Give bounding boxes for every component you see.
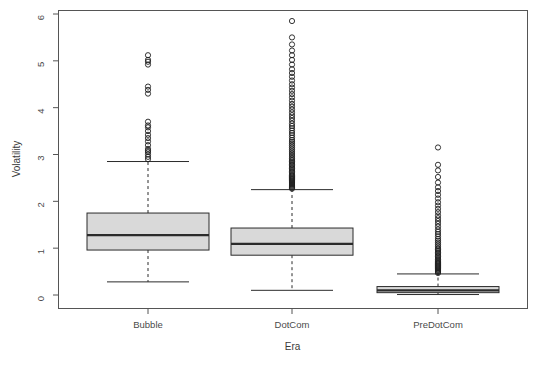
- outlier-point-predotcom: [435, 162, 440, 167]
- y-axis-title: Volatility: [11, 141, 22, 178]
- y-tick-label-0: 0: [35, 296, 46, 301]
- outlier-point-dotcom: [289, 35, 294, 40]
- chart-canvas: 0123456VolatilityBubbleDotComPreDotComEr…: [0, 0, 541, 367]
- outlier-point-predotcom: [435, 145, 440, 150]
- outlier-point-bubble: [145, 119, 150, 124]
- y-tick-label-3: 3: [35, 155, 46, 160]
- x-tick-label-dotcom: DotCom: [275, 319, 310, 330]
- y-tick-label-6: 6: [35, 15, 46, 20]
- outlier-point-dotcom: [289, 42, 294, 47]
- boxplot-svg: 0123456VolatilityBubbleDotComPreDotComEr…: [0, 0, 541, 367]
- x-axis-title: Era: [285, 341, 301, 352]
- x-tick-label-predotcom: PreDotCom: [413, 319, 463, 330]
- outlier-point-bubble: [145, 84, 150, 89]
- x-tick-label-bubble: Bubble: [133, 319, 163, 330]
- outlier-point-dotcom: [289, 18, 294, 23]
- y-tick-label-1: 1: [35, 249, 46, 254]
- outlier-point-predotcom: [435, 174, 440, 179]
- y-tick-label-5: 5: [35, 62, 46, 67]
- box-dotcom: [231, 228, 353, 255]
- box-bubble: [87, 213, 209, 250]
- y-tick-label-4: 4: [35, 109, 46, 114]
- y-tick-label-2: 2: [35, 202, 46, 207]
- outlier-point-predotcom: [435, 168, 440, 173]
